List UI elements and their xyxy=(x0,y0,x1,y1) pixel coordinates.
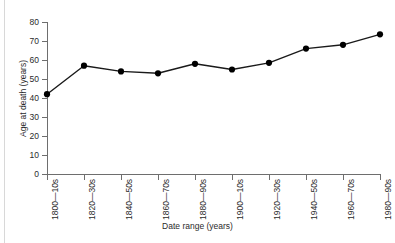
y-tick-label: 0 xyxy=(19,170,39,179)
data-point xyxy=(340,42,346,48)
series-line xyxy=(47,34,380,94)
y-tick-label: 40 xyxy=(19,94,39,103)
x-tick-label: 1900—10s xyxy=(236,179,245,220)
x-tick-label: 1860—70s xyxy=(162,179,171,220)
data-point xyxy=(303,46,309,52)
x-tick-label: 1880—90s xyxy=(199,179,208,220)
data-point xyxy=(266,60,272,66)
y-tick-label: 30 xyxy=(19,113,39,122)
data-point xyxy=(377,31,383,37)
page-edge-rule xyxy=(4,0,5,243)
data-point xyxy=(118,68,124,74)
data-point xyxy=(155,70,161,76)
x-axis-title: Date range (years) xyxy=(0,221,395,231)
x-tick-label: 1840—50s xyxy=(125,179,134,220)
data-point xyxy=(229,66,235,72)
y-tick-label: 20 xyxy=(19,132,39,141)
x-tick xyxy=(47,175,48,180)
x-tick-label: 1920—30s xyxy=(273,179,282,220)
x-tick-label: 1820—30s xyxy=(88,179,97,220)
x-tick xyxy=(121,175,122,180)
x-tick-label: 1980—90s xyxy=(384,179,393,220)
x-tick xyxy=(232,175,233,180)
data-point xyxy=(44,91,50,97)
x-tick xyxy=(269,175,270,180)
x-tick xyxy=(158,175,159,180)
x-tick xyxy=(380,175,381,180)
plot-area: 01020304050607080 1800—10s1820—30s1840—5… xyxy=(47,22,380,174)
series-markers xyxy=(44,31,383,97)
data-point xyxy=(81,63,87,69)
data-series xyxy=(47,22,380,175)
x-tick xyxy=(343,175,344,180)
y-tick-label: 50 xyxy=(19,75,39,84)
y-tick-label: 10 xyxy=(19,151,39,160)
x-tick xyxy=(84,175,85,180)
y-tick-label: 80 xyxy=(19,18,39,27)
y-tick-label: 60 xyxy=(19,56,39,65)
x-tick-label: 1940—50s xyxy=(310,179,319,220)
x-tick-label: 1800—10s xyxy=(51,179,60,220)
y-tick-label: 70 xyxy=(19,37,39,46)
x-tick-label: 1960—70s xyxy=(347,179,356,220)
line-chart-figure: Age at death (years) 01020304050607080 1… xyxy=(0,0,395,243)
x-tick xyxy=(195,175,196,180)
x-tick xyxy=(306,175,307,180)
data-point xyxy=(192,61,198,67)
